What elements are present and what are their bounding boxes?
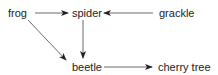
food-web-diagram: frog spider grackle beetle cherry tree [0,0,218,75]
node-frog: frog [8,7,27,19]
node-spider: spider [72,7,102,19]
node-cherry-tree: cherry tree [158,61,211,73]
edge-frog-to-beetle [28,20,66,60]
node-grackle: grackle [159,7,194,19]
node-beetle: beetle [72,61,102,73]
